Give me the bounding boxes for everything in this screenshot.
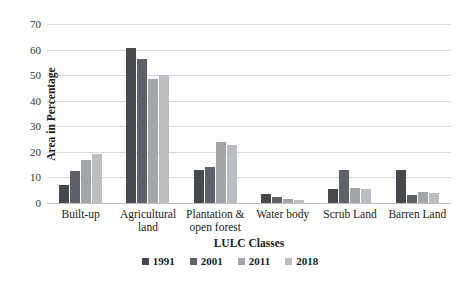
x-category-label-4: Scrub Land xyxy=(316,208,383,234)
bar-1991-2 xyxy=(194,170,204,203)
bar-2011-2 xyxy=(216,142,226,203)
plot-area: 010203040506070 Area in Percentage xyxy=(47,24,451,203)
legend-label: 2001 xyxy=(201,256,223,267)
lulc-bar-chart: 010203040506070 Area in Percentage Built… xyxy=(0,0,460,285)
bar-2018-1 xyxy=(159,75,169,203)
bar-1991-5 xyxy=(396,170,406,203)
bar-2001-5 xyxy=(407,195,417,203)
y-tick-label-30: 30 xyxy=(11,121,41,132)
legend-item-1991: 1991 xyxy=(142,256,175,267)
x-category-label-1: Agricultural land xyxy=(114,208,181,234)
bar-1991-1 xyxy=(126,48,136,203)
legend-swatch-icon xyxy=(238,258,245,265)
legend-label: 1991 xyxy=(153,256,175,267)
y-tick-label-0: 0 xyxy=(11,198,41,209)
y-tick-label-60: 60 xyxy=(11,45,41,56)
bar-2018-0 xyxy=(92,154,102,203)
bar-1991-3 xyxy=(261,194,271,203)
y-tick-label-50: 50 xyxy=(11,70,41,81)
bar-group-4 xyxy=(316,24,383,203)
legend-swatch-icon xyxy=(190,258,197,265)
x-category-label-5: Barren Land xyxy=(384,208,451,234)
bar-2018-4 xyxy=(361,189,371,203)
bar-group-0 xyxy=(47,24,114,203)
gridline-0 xyxy=(47,203,451,204)
legend-item-2001: 2001 xyxy=(190,256,223,267)
bar-2001-0 xyxy=(70,171,80,203)
legend-swatch-icon xyxy=(142,258,149,265)
legend-label: 2018 xyxy=(296,256,318,267)
bar-groups xyxy=(47,24,451,203)
bar-2011-3 xyxy=(283,199,293,203)
bar-2011-5 xyxy=(418,192,428,204)
bar-2011-1 xyxy=(148,79,158,203)
bar-group-3 xyxy=(249,24,316,203)
bar-group-1 xyxy=(114,24,181,203)
bar-group-5 xyxy=(384,24,451,203)
bar-1991-4 xyxy=(328,189,338,203)
bar-2018-3 xyxy=(294,200,304,203)
bar-1991-0 xyxy=(59,185,69,203)
bar-2018-5 xyxy=(429,193,439,203)
x-category-label-3: Water body xyxy=(249,208,316,234)
bar-2001-4 xyxy=(339,170,349,203)
x-axis-title: LULC Classes xyxy=(47,237,451,249)
bar-2001-3 xyxy=(272,197,282,203)
bar-2001-1 xyxy=(137,59,147,203)
bar-2001-2 xyxy=(205,167,215,203)
y-tick-label-40: 40 xyxy=(11,96,41,107)
x-category-label-0: Built-up xyxy=(47,208,114,234)
x-axis-category-labels: Built-upAgricultural landPlantation & op… xyxy=(47,208,451,234)
y-tick-label-20: 20 xyxy=(11,147,41,158)
legend: 1991200120112018 xyxy=(0,256,460,267)
y-tick-label-10: 10 xyxy=(11,172,41,183)
x-category-label-2: Plantation & open forest xyxy=(182,208,249,234)
y-tick-label-70: 70 xyxy=(11,19,41,30)
legend-item-2011: 2011 xyxy=(238,256,270,267)
legend-item-2018: 2018 xyxy=(285,256,318,267)
legend-swatch-icon xyxy=(285,258,292,265)
bar-2018-2 xyxy=(227,145,237,203)
legend-label: 2011 xyxy=(249,256,270,267)
bar-group-2 xyxy=(182,24,249,203)
bar-2011-0 xyxy=(81,160,91,203)
bar-2011-4 xyxy=(350,188,360,203)
